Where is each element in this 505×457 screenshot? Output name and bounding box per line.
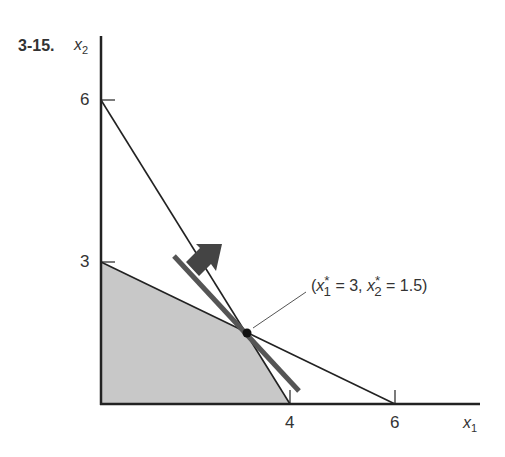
annotation-leader xyxy=(253,292,306,328)
x-axis-label: x1 xyxy=(463,414,477,434)
x-tick-label-4: 4 xyxy=(285,413,294,433)
lp-diagram xyxy=(0,0,505,457)
x-tick-label-6: 6 xyxy=(390,413,399,433)
optimal-point-annotation: (x*1 = 3, x*2 = 1.5) xyxy=(311,273,427,299)
y-tick-label-6: 6 xyxy=(80,90,89,110)
feasible-region xyxy=(101,262,290,404)
optimal-point xyxy=(243,329,252,338)
y-axis-label: x2 xyxy=(74,36,88,56)
y-tick-label-3: 3 xyxy=(80,252,89,272)
figure-number: 3-15. xyxy=(18,37,54,55)
